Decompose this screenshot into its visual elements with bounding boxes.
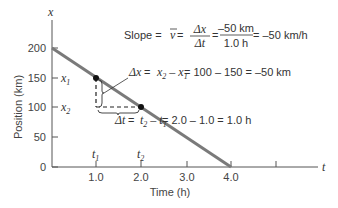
svg-text:=: = xyxy=(177,29,183,41)
svg-text:Δx: Δx xyxy=(128,65,142,79)
x-ticks xyxy=(96,161,276,167)
svg-text:Δt: Δt xyxy=(114,113,126,127)
x-tick-4: 4.0 xyxy=(223,171,238,183)
svg-text:=: = xyxy=(144,66,150,78)
x2-label: x2 xyxy=(60,100,70,116)
delta-x-brace xyxy=(99,80,104,107)
y-ticks xyxy=(52,48,58,167)
y-axis-title: Position (km) xyxy=(12,75,24,139)
y-tick-100: 100 xyxy=(28,101,46,113)
x-tick-3: 3.0 xyxy=(179,171,194,183)
t2-label: t2 xyxy=(137,147,144,163)
y-tick-150: 150 xyxy=(28,72,46,84)
svg-text:v: v xyxy=(170,28,176,42)
point-t2-x2 xyxy=(138,104,144,110)
svg-text:–50 km: –50 km xyxy=(218,22,254,34)
point-t1-x1 xyxy=(93,75,99,81)
slope-equation: Slope = v = Δx Δt = –50 km 1.0 h = –50 k… xyxy=(124,22,308,50)
t1-label: t1 xyxy=(92,147,99,163)
svg-text:=: = xyxy=(128,114,134,126)
x-tick-2: 2.0 xyxy=(133,171,148,183)
svg-text:= –50 km/h: = –50 km/h xyxy=(253,29,308,41)
x-axis-symbol: t xyxy=(322,160,326,174)
x1-label: x1 xyxy=(60,71,70,87)
svg-text:Δt: Δt xyxy=(194,36,206,50)
delta-x-equation: Δx = x2 – x1 = 100 – 150 = –50 km xyxy=(128,65,291,81)
svg-text:Δx: Δx xyxy=(193,22,207,36)
y-tick-200: 200 xyxy=(28,42,46,54)
svg-text:1.0 h: 1.0 h xyxy=(224,37,248,49)
y-tick-50: 50 xyxy=(34,131,46,143)
svg-text:Slope =: Slope = xyxy=(124,29,162,41)
x-axis-title: Time (h) xyxy=(150,186,191,198)
x-tick-1: 1.0 xyxy=(88,171,103,183)
y-tick-0: 0 xyxy=(40,161,46,173)
position-time-chart: x t 0 50 100 150 200 x1 x2 Position (km)… xyxy=(0,0,338,208)
svg-text:x2 – x1: x2 – x1 xyxy=(156,65,188,81)
delta-t-equation: Δt = t2 – t1 = 2.0 – 1.0 = 1.0 h xyxy=(114,113,251,129)
svg-text:= 100 – 150 = –50 km: = 100 – 150 = –50 km xyxy=(184,66,291,78)
svg-text:= 2.0 – 1.0 = 1.0 h: = 2.0 – 1.0 = 1.0 h xyxy=(162,114,251,126)
y-axis-symbol: x xyxy=(47,5,54,19)
